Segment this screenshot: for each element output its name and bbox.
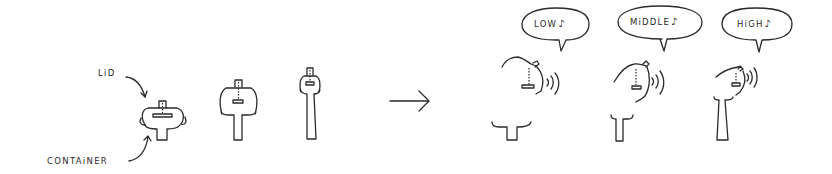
right-arrow-icon xyxy=(390,91,429,111)
diagram-drawing xyxy=(0,0,832,174)
container-open-low xyxy=(492,122,531,140)
sound-wave-icon xyxy=(547,79,549,86)
sound-wave-icon xyxy=(652,78,654,85)
container-open-high xyxy=(714,97,733,140)
pitch-label-low: LOW♪ xyxy=(534,18,565,29)
container-open-middle xyxy=(611,115,633,141)
speech-bubble-low xyxy=(522,8,589,51)
music-note-icon: ♪ xyxy=(765,18,771,29)
music-note-icon: ♪ xyxy=(671,16,677,27)
sound-wave-icon xyxy=(747,74,749,81)
stage-closed-medium xyxy=(220,80,257,140)
diagram-canvas: LiD CONTAiNER xyxy=(0,0,832,174)
speech-bubble-high xyxy=(722,8,792,52)
stage-closed-wide xyxy=(140,101,186,140)
pitch-label-high: HiGH♪ xyxy=(737,18,771,29)
stage-closed-narrow xyxy=(300,68,320,139)
pitch-label-middle: MiDDLE♪ xyxy=(630,16,677,27)
speech-bubble-middle xyxy=(618,6,702,51)
music-note-icon: ♪ xyxy=(558,18,564,29)
container-pointer-arrow xyxy=(129,137,148,161)
